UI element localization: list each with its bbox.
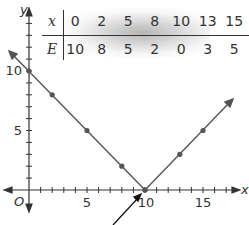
table-cell: 10 — [168, 13, 195, 29]
table-cell: 10 — [62, 41, 89, 57]
origin-label: O — [14, 194, 24, 209]
y-tick-label-5: 5 — [14, 123, 22, 138]
table-cell: 5 — [115, 13, 142, 29]
table-cell: 8 — [142, 13, 169, 29]
table-cell: 0 — [168, 41, 195, 57]
values-table: x 0 2 5 8 10 13 15 E 10 8 5 2 0 3 5 — [40, 4, 249, 62]
y-tick-label-10: 10 — [5, 63, 22, 78]
x-tick-label-5: 5 — [83, 195, 91, 210]
table-row-e: E 10 8 5 2 0 3 5 — [40, 38, 249, 60]
x-tick-label-15: 15 — [195, 195, 212, 210]
table-cell: 2 — [142, 41, 169, 57]
row-header-x: x — [40, 13, 64, 29]
table-cell: 8 — [89, 41, 116, 57]
table-cell: 5 — [115, 41, 142, 57]
y-axis-label: y — [19, 2, 28, 17]
table-cell: 5 — [221, 41, 248, 57]
table-row-x: x 0 2 5 8 10 13 15 — [40, 10, 249, 32]
table-cell: 13 — [195, 13, 222, 29]
table-cell: 15 — [221, 13, 248, 29]
table-cell: 0 — [62, 13, 89, 29]
x-axis-label: x — [240, 182, 249, 197]
table-cell: 2 — [89, 13, 116, 29]
x-tick-label-10: 10 — [138, 195, 155, 210]
table-divider-horizontal — [42, 35, 249, 36]
row-header-e: E — [40, 41, 64, 57]
data-points — [26, 68, 205, 192]
table-cell: 3 — [195, 41, 222, 57]
y-axis — [26, 8, 32, 212]
data-line-e — [9, 51, 233, 190]
